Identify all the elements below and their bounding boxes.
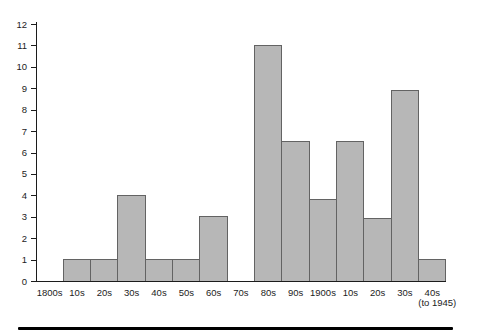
bar-1900s-10 [309,200,336,281]
bar-30s-3 [118,195,145,281]
y-tick-label-8: 8 [22,104,27,115]
x-tick-label-13: 30s [397,287,413,298]
y-tick-label-10: 10 [16,61,27,72]
x-tick-label-0: 1800s [37,287,63,298]
x-tick-label-5: 50s [179,287,195,298]
x-tick-label-7: 70s [233,287,249,298]
bar-20s-12 [364,219,391,281]
x-tick-label-10: 1900s [310,287,336,298]
x-tick-label-11: 10s [343,287,359,298]
y-tick-label-0: 0 [22,276,27,287]
x-tick-label-1: 10s [69,287,85,298]
x-tick-label-4: 40s [151,287,167,298]
y-tick-label-5: 5 [22,168,27,179]
y-tick-label-6: 6 [22,147,27,158]
bottom-rule [18,327,453,330]
x-tick-label-6: 60s [206,287,222,298]
x-tick-label-12: 20s [370,287,386,298]
bar-30s-13 [391,90,418,281]
x-tick-label-9: 90s [288,287,304,298]
bar-60s-6 [200,217,227,281]
y-tick-label-7: 7 [22,126,27,137]
histogram-chart: 01234567891011121800s10s20s30s40s50s60s7… [0,0,477,334]
bar-90s-9 [282,142,309,281]
bar-20s-2 [91,260,118,281]
chart-page: 01234567891011121800s10s20s30s40s50s60s7… [0,0,477,334]
bar-50s-5 [173,260,200,281]
bar-40s-4 [145,260,172,281]
bar-40s-14 [419,260,446,281]
bar-80s-8 [255,45,282,281]
bar-10s-1 [63,260,90,281]
x-tick-label-2: 20s [97,287,113,298]
y-tick-label-4: 4 [22,190,27,201]
y-tick-label-9: 9 [22,83,27,94]
y-tick-label-2: 2 [22,233,27,244]
bar-10s-11 [337,142,364,281]
y-tick-label-12: 12 [16,19,27,30]
y-tick-label-3: 3 [22,211,27,222]
x-tick-label-8: 80s [261,287,277,298]
y-tick-label-1: 1 [22,254,27,265]
x-tick-label-note: (to 1945) [418,297,456,308]
x-tick-label-3: 30s [124,287,140,298]
y-tick-label-11: 11 [17,40,27,51]
